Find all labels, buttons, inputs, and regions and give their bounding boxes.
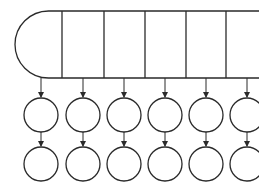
header-bar-outline [15,11,259,78]
diagram-canvas [0,0,275,189]
list-node [107,147,141,181]
list-node [24,98,58,132]
list-node [66,147,100,181]
list-node [107,98,141,132]
list-node [230,98,264,132]
linked-list-array-diagram [0,0,275,189]
nodes-group [24,98,264,181]
list-node [189,147,223,181]
header-bar [15,11,259,78]
list-node [148,98,182,132]
list-node [189,98,223,132]
list-node [66,98,100,132]
list-node [24,147,58,181]
list-node [148,147,182,181]
list-node [230,147,264,181]
arrows-group [41,78,247,146]
